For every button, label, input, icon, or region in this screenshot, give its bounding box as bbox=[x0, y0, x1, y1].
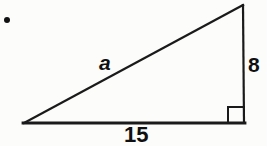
side-label-vertical-leg: 8 bbox=[248, 54, 260, 75]
figure-canvas: a 8 15 bbox=[0, 0, 267, 146]
triangle-hypotenuse-line bbox=[24, 5, 243, 123]
side-label-horizontal-leg: 15 bbox=[124, 124, 148, 146]
right-angle-square-icon bbox=[228, 107, 244, 123]
triangle-vertical-leg-line bbox=[243, 5, 244, 123]
side-label-hypotenuse: a bbox=[99, 52, 111, 73]
